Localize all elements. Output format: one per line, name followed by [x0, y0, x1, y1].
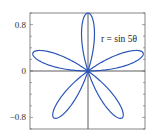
equation-label: r = sin 5θ [101, 34, 137, 44]
y-tick-label-bottom: −0.8 [10, 112, 27, 122]
y-tick-label-zero: 0 [22, 66, 27, 76]
polar-rose-chart: 0.8 0 −0.8 r = sin 5θ [0, 0, 153, 137]
y-tick-label-top: 0.8 [15, 20, 27, 30]
